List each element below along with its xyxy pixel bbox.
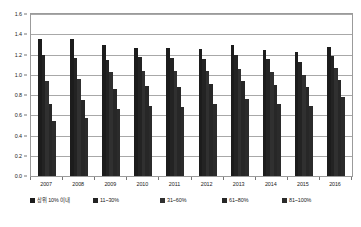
bar-group [231, 14, 249, 176]
bar-group [166, 14, 184, 176]
bar-group [134, 14, 152, 176]
y-axis-tick-label: 1.0 [15, 72, 22, 78]
x-axis-tick-mark [223, 177, 224, 180]
legend-label: 31~60% [167, 198, 186, 203]
x-axis-tick-mark [287, 177, 288, 180]
bar [85, 118, 89, 176]
legend-item[interactable]: 61~80% [222, 198, 248, 203]
bar [52, 121, 56, 176]
bar [309, 106, 313, 176]
bar-group [295, 14, 313, 176]
legend-label: 81~100% [289, 198, 311, 203]
bar-group [102, 14, 120, 176]
x-axis-tick-label: 2011 [169, 181, 180, 187]
legend-swatch-icon [222, 198, 227, 203]
legend-swatch-icon [93, 198, 98, 203]
bar [245, 99, 249, 176]
bar [149, 106, 153, 176]
bar [117, 109, 121, 176]
x-axis-tick-label: 2015 [297, 181, 309, 187]
bar [277, 104, 281, 176]
x-axis-tick-mark [351, 177, 352, 180]
bar [213, 104, 217, 176]
x-axis-tick-mark [158, 177, 159, 180]
x-axis-tick-label: 2016 [329, 181, 341, 187]
y-axis-tick-label: 0.4 [15, 133, 22, 139]
y-axis-tick-mark [24, 74, 27, 75]
x-axis-tick-mark [126, 177, 127, 180]
x-axis-tick-mark [319, 177, 320, 180]
x-axis-tick-mark [191, 177, 192, 180]
x-axis-tick-mark [94, 177, 95, 180]
legend-swatch-icon [30, 198, 35, 203]
legend-item[interactable]: 81~100% [282, 198, 311, 203]
x-axis-tick-label: 2013 [233, 181, 245, 187]
y-axis-tick-label: 0.6 [15, 112, 22, 118]
x-axis-tick-label: 2012 [201, 181, 213, 187]
bar [181, 107, 185, 176]
y-axis-tick-mark [24, 95, 27, 96]
bar-chart: 0.00.20.40.60.81.01.21.41.6 200720082009… [0, 0, 361, 227]
x-axis-tick-mark [255, 177, 256, 180]
x-axis-tick-mark [30, 177, 31, 180]
legend-label: 상위 10% 이내 [37, 198, 70, 203]
x-axis-tick-label: 2010 [137, 181, 149, 187]
y-axis-tick-label: 1.4 [15, 31, 22, 37]
y-axis-tick-label: 0.2 [15, 153, 22, 159]
legend-label: 11~30% [100, 198, 119, 203]
x-axis-tick-mark [62, 177, 63, 180]
bar-group [327, 14, 345, 176]
y-axis-tick-mark [24, 135, 27, 136]
x-axis-tick-label: 2014 [265, 181, 277, 187]
y-axis-tick-mark [24, 14, 27, 15]
legend-label: 61~80% [229, 198, 248, 203]
y-axis-tick-label: 1.6 [15, 11, 22, 17]
y-axis-tick-mark [24, 115, 27, 116]
bar-group [38, 14, 56, 176]
y-axis-tick-mark [24, 155, 27, 156]
y-axis-tick-mark [24, 34, 27, 35]
x-axis-tick-label: 2008 [72, 181, 84, 187]
x-axis-tick-label: 2009 [104, 181, 116, 187]
bar [341, 97, 345, 176]
chart-legend: 상위 10% 이내11~30%31~60%61~80%81~100% [30, 198, 353, 212]
y-axis: 0.00.20.40.60.81.01.21.41.6 [0, 13, 27, 177]
legend-item[interactable]: 31~60% [160, 198, 186, 203]
legend-item[interactable]: 상위 10% 이내 [30, 198, 70, 203]
plot-area [30, 13, 353, 177]
bar-group [199, 14, 217, 176]
y-axis-tick-mark [24, 176, 27, 177]
x-axis-tick-label: 2007 [40, 181, 52, 187]
legend-item[interactable]: 11~30% [93, 198, 119, 203]
y-axis-tick-label: 1.2 [15, 52, 22, 58]
legend-swatch-icon [282, 198, 287, 203]
x-axis: 2007200820092010201120122013201420152016 [30, 181, 353, 192]
bar-group [263, 14, 281, 176]
y-axis-tick-label: 0.8 [15, 92, 22, 98]
bar-group [70, 14, 88, 176]
y-axis-tick-mark [24, 54, 27, 55]
y-axis-tick-label: 0.0 [15, 173, 22, 179]
legend-swatch-icon [160, 198, 165, 203]
bars-layer [31, 14, 352, 176]
